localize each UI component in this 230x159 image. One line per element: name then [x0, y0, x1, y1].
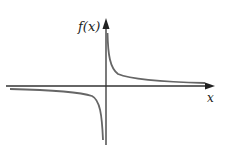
y-axis-arrow-icon	[103, 18, 110, 29]
x-axis-label: x	[207, 91, 214, 105]
y-axis-label: f(x)	[77, 19, 100, 34]
function-graph: f(x) x	[0, 0, 230, 159]
x-axis-arrow-icon	[205, 83, 215, 90]
curve-right-branch	[108, 33, 206, 83]
curve-left-branch	[10, 89, 103, 140]
